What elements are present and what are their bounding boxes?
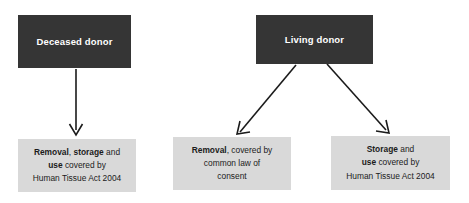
diagram-canvas: Deceased donor Living donor Removal, sto… [0, 0, 469, 203]
source-label-living-donor: Living donor [285, 34, 344, 45]
outcome-text-storage: Storage anduse covered byHuman Tissue Ac… [346, 143, 434, 182]
outcome-box-deceased: Removal, storage anduse covered byHuman … [18, 139, 136, 192]
source-box-deceased-donor: Deceased donor [18, 15, 131, 68]
outcome-box-removal: Removal, covered bycommon law ofconsent [173, 137, 291, 190]
outcome-text-removal: Removal, covered bycommon law ofconsent [192, 144, 273, 183]
arrow-deceased-to-outcome [70, 69, 83, 135]
arrow-living-to-storage [327, 64, 389, 133]
source-label-deceased-donor: Deceased donor [36, 36, 112, 47]
source-box-living-donor: Living donor [256, 15, 373, 64]
outcome-text-deceased: Removal, storage anduse covered byHuman … [33, 146, 121, 185]
arrow-living-to-removal [237, 65, 296, 134]
outcome-box-storage: Storage anduse covered byHuman Tissue Ac… [331, 136, 450, 190]
